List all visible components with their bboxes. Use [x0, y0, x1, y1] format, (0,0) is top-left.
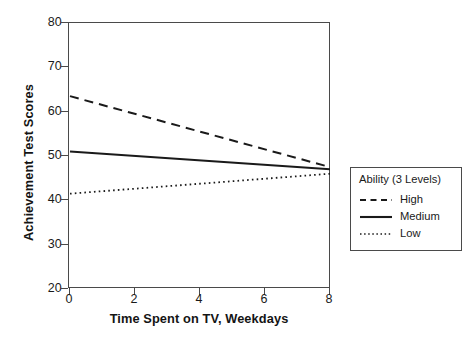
- legend-key-dotted-icon: [359, 228, 393, 240]
- legend-item-medium: Medium: [351, 209, 461, 226]
- legend-key-solid-icon: [359, 211, 393, 223]
- y-tick-mark-40: [61, 199, 68, 200]
- legend: Ability (3 Levels) High Medium: [350, 167, 462, 251]
- legend-label-medium: Medium: [400, 211, 440, 223]
- legend-item-high: High: [351, 192, 461, 209]
- legend-label-low: Low: [400, 228, 421, 240]
- x-tick-label-4: 4: [179, 293, 219, 306]
- plot-area: [68, 22, 330, 288]
- y-tick-mark-30: [61, 244, 68, 245]
- y-tick-mark-20: [61, 288, 68, 289]
- series-line-medium: [70, 152, 330, 170]
- plot-lines-svg: [69, 23, 331, 289]
- legend-item-low: Low: [351, 226, 461, 243]
- x-tick-label-0: 0: [49, 293, 89, 306]
- x-tick-label-6: 6: [244, 293, 284, 306]
- legend-title: Ability (3 Levels): [351, 174, 461, 186]
- series-line-high: [70, 96, 330, 167]
- legend-key-dashed-icon: [359, 194, 393, 206]
- figure-caption: [18, 330, 458, 340]
- y-tick-mark-70: [61, 66, 68, 67]
- figure-container: 80 70 60 50 40 30 20 Achievement Test Sc…: [0, 0, 468, 340]
- y-tick-mark-60: [61, 111, 68, 112]
- y-axis-title: Achievement Test Scores: [21, 53, 36, 273]
- legend-label-high: High: [400, 194, 423, 206]
- y-tick-mark-50: [61, 155, 68, 156]
- y-tick-mark-80: [61, 22, 68, 23]
- y-tick-label-80: 80: [4, 16, 62, 29]
- series-line-low: [70, 174, 330, 194]
- x-tick-label-2: 2: [114, 293, 154, 306]
- x-tick-label-8: 8: [309, 293, 349, 306]
- x-axis-title: Time Spent on TV, Weekdays: [68, 311, 330, 326]
